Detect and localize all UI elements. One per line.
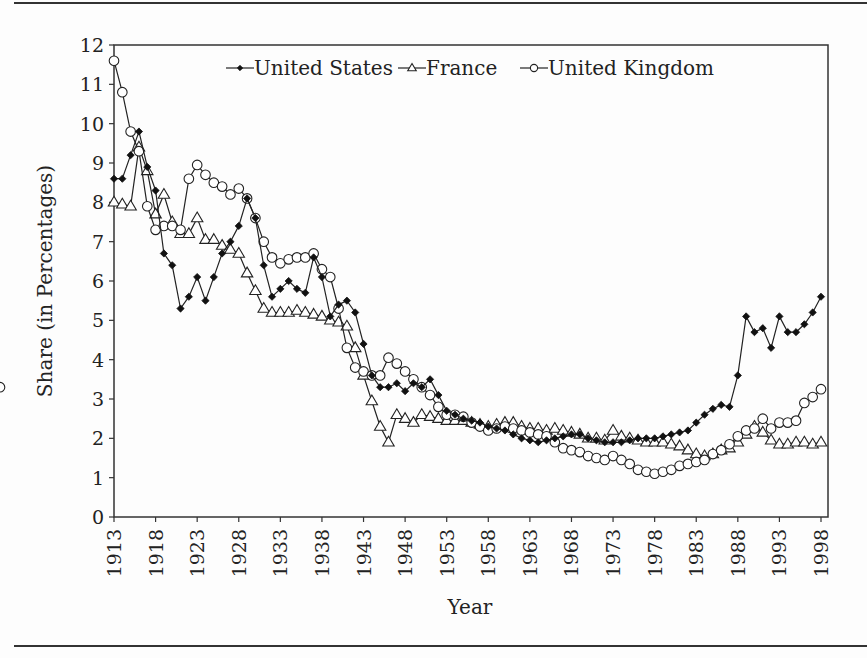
x-tick-label: 1968: [560, 529, 582, 577]
y-axis-title: Share (in Percentages): [33, 165, 57, 397]
y-tick-label: 6: [92, 270, 104, 292]
x-tick-label: 1953: [436, 529, 458, 577]
series-france: [108, 141, 826, 459]
legend-label: France: [426, 56, 497, 80]
x-tick-label: 1933: [269, 529, 291, 577]
y-tick-label: 1: [92, 467, 104, 489]
x-tick-label: 1958: [477, 529, 499, 577]
x-tick-label: 1913: [103, 529, 125, 577]
line-chart: 0123456789101112 19131918192319281933193…: [0, 0, 867, 658]
y-axis: 0123456789101112: [80, 34, 114, 528]
legend-item-united-states: United States: [226, 56, 393, 80]
x-axis: 1913191819231928193319381943194819531958…: [103, 517, 832, 577]
x-tick-label: 1943: [353, 529, 375, 577]
legend-label: United Kingdom: [548, 56, 714, 80]
y-tick-label: 5: [92, 309, 104, 331]
x-tick-label: 1948: [394, 529, 416, 577]
y-tick-label: 8: [92, 191, 104, 213]
series-layer: [0, 56, 827, 479]
y-tick-label: 12: [80, 34, 104, 56]
y-tick-label: 4: [92, 349, 104, 371]
x-tick-label: 1983: [685, 529, 707, 577]
x-tick-label: 1973: [602, 529, 624, 577]
x-tick-label: 1963: [519, 529, 541, 577]
x-axis-title: Year: [447, 595, 493, 619]
legend-item-united-kingdom: United Kingdom: [520, 56, 714, 80]
x-tick-label: 1928: [228, 529, 250, 577]
x-tick-label: 1938: [311, 529, 333, 577]
legend-item-france: France: [398, 56, 497, 80]
x-tick-label: 1998: [810, 529, 832, 577]
y-tick-label: 3: [92, 388, 104, 410]
legend-label: United States: [254, 56, 393, 80]
y-tick-label: 9: [92, 152, 104, 174]
y-tick-label: 10: [80, 113, 104, 135]
x-tick-label: 1918: [145, 529, 167, 577]
y-tick-label: 2: [92, 427, 104, 449]
x-tick-label: 1978: [644, 529, 666, 577]
x-tick-label: 1993: [768, 529, 790, 577]
legend: United StatesFranceUnited Kingdom: [226, 56, 714, 80]
x-tick-label: 1988: [727, 529, 749, 577]
x-tick-label: 1923: [186, 529, 208, 577]
series-united-states: [110, 128, 824, 446]
y-tick-label: 0: [92, 506, 104, 528]
y-tick-label: 11: [80, 73, 104, 95]
y-tick-label: 7: [92, 231, 104, 253]
